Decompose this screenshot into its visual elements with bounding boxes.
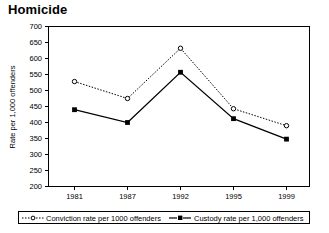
x-tick-label: 1992 (172, 192, 189, 201)
x-tick-label: 1987 (119, 192, 136, 201)
y-tick-label: 650 (29, 38, 42, 47)
data-point-marker-square (125, 120, 130, 125)
data-point-marker-circle (72, 79, 76, 83)
y-tick-label: 200 (29, 182, 42, 191)
x-tick-label: 1995 (225, 192, 242, 201)
x-axis: 1981 1987 1992 1995 1999 (66, 187, 295, 202)
data-point-marker-square (72, 107, 77, 112)
y-tick-label: 250 (29, 166, 42, 175)
y-axis: 700 650 600 550 500 450 400 350 300 250 … (29, 22, 48, 191)
y-tick-label: 300 (29, 150, 42, 159)
legend-entry-custody: Custody rate per 1,000 offenders (169, 214, 304, 223)
data-point-marker-circle (178, 46, 182, 50)
y-tick-label: 700 (29, 22, 42, 31)
data-point-marker-circle (284, 124, 288, 128)
data-point-marker-square (284, 137, 289, 142)
filled-square-icon (178, 216, 182, 220)
chart-plot-area: 700 650 600 550 500 450 400 350 300 250 … (0, 0, 329, 233)
chart-legend: Conviction rate per 1000 offenders Custo… (18, 211, 310, 224)
legend-label-conviction: Conviction rate per 1000 offenders (46, 214, 161, 223)
y-tick-label: 450 (29, 102, 42, 111)
legend-label-custody: Custody rate per 1,000 offenders (194, 214, 304, 223)
homicide-chart: Homicide 700 650 600 550 500 450 400 350… (0, 0, 329, 233)
y-axis-title: Rate per 1,000 offenders (8, 65, 17, 148)
x-tick-label: 1981 (66, 192, 83, 201)
y-tick-label: 350 (29, 134, 42, 143)
legend-entry-conviction: Conviction rate per 1000 offenders (22, 214, 161, 223)
data-point-marker-circle (231, 107, 235, 111)
data-point-marker-square (231, 116, 236, 121)
y-tick-label: 550 (29, 70, 42, 79)
y-tick-label: 400 (29, 118, 42, 127)
y-tick-label: 500 (29, 86, 42, 95)
open-circle-icon (31, 216, 35, 220)
x-tick-label: 1999 (278, 192, 295, 201)
y-tick-label: 600 (29, 54, 42, 63)
data-point-marker-square (178, 70, 183, 75)
data-point-marker-circle (125, 96, 129, 100)
